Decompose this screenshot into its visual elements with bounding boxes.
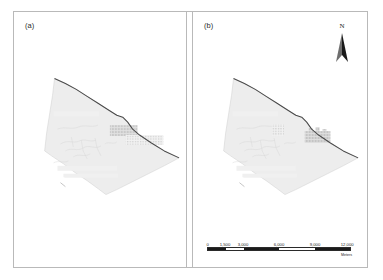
scale-segment [208,248,226,250]
scale-segment [279,248,315,250]
scale-bar-ticks: 0 1,500 3,000 6,000 9,000 12,000 [207,238,351,247]
map-panel-b[interactable]: (b) N 0 1,500 3,000 6,000 9,000 12,000 [192,11,368,268]
panel-label-b: (b) [204,21,213,30]
panel-label-a: (a) [25,21,34,30]
north-arrow-icon [331,32,353,64]
edge-marker-b [239,183,244,187]
north-arrow-letter: N [331,22,353,30]
patch-sparse-dots-a [126,135,164,145]
patch-small-dots-b [272,124,284,136]
figure-root: (a) [0,0,383,280]
scale-bar: 0 1,500 3,000 6,000 9,000 12,000 Meters [207,238,351,251]
edge-marker-a [60,183,65,187]
map-panel-a[interactable]: (a) [13,11,187,268]
scale-bar-units-label: Meters [341,253,352,257]
north-arrow: N [331,22,353,64]
scale-segment [244,248,280,250]
patch-dense-grid-a [110,125,138,136]
scale-bar-segments [207,247,351,251]
scale-segment [226,248,244,250]
scale-segment [315,248,351,250]
map-canvas-a [14,12,186,267]
